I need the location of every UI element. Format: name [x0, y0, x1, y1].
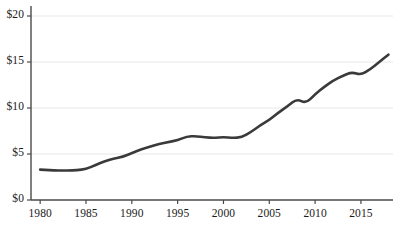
y-axis-tick-label: $5 — [12, 146, 24, 158]
x-axis-tick-label: 2000 — [198, 207, 248, 219]
x-axis-tick-label: 1985 — [61, 207, 111, 219]
x-axis-tick-label: 2010 — [290, 207, 340, 219]
y-axis-tick-label: $10 — [6, 100, 24, 112]
x-axis-tick-label: 1995 — [153, 207, 203, 219]
y-axis-tick-label: $15 — [6, 54, 24, 66]
y-axis-tick-label: $20 — [6, 8, 24, 20]
chart-canvas — [0, 0, 399, 232]
x-axis-tick-label: 1990 — [107, 207, 157, 219]
x-axis-tick-label: 1980 — [15, 207, 65, 219]
x-axis-tick-label: 2005 — [244, 207, 294, 219]
y-axis-tick-label: $0 — [12, 192, 24, 204]
line-chart: $0$5$10$15$20 19801985199019952000200520… — [0, 0, 399, 232]
data-line-series-value — [40, 55, 388, 171]
gridlines — [31, 16, 393, 154]
x-axis-tick-label: 2015 — [336, 207, 386, 219]
